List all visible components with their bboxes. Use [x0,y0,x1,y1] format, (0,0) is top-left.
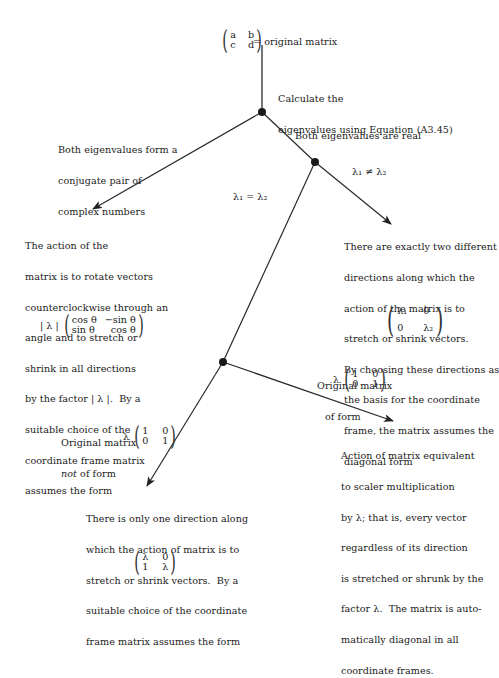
text-line: complex numbers [58,207,178,217]
text-line: There are exactly two different [344,242,499,252]
form-result-text: Action of matrix equivalent to scaler mu… [341,431,483,678]
text-line: factor λ. The matrix is auto- [341,604,483,614]
text-line: matically diagonal in all [341,635,483,645]
text-line: counterclockwise through an [25,303,168,313]
matrix-cell: 1 [162,436,168,447]
real-branch-label: Both eigenvalues are real [295,131,421,141]
text-line: stretch or shrink vectors. By a [86,576,248,586]
left-paren: ( [344,368,350,390]
matrix-prefix: λ [333,374,339,385]
equal-eigenvalues-label: λ₁ = λ₂ [233,192,267,202]
matrix-prefix: λ [123,431,129,442]
text-line: suitable choice of the coordinate [86,606,248,616]
matrix-cell: 1 [142,562,148,573]
matrix-cell: sin θ [72,325,97,336]
right-paren: ) [171,425,177,447]
text-line: There is only one direction along [86,514,248,524]
text-line: frame matrix assumes the form [86,637,248,647]
matrix-cell: λ [162,562,168,573]
text-line: conjugate pair of [58,176,178,186]
rotation-matrix: | λ | ( cos θ −sin θ sin θ cos θ ) [40,314,146,336]
text-line: is stretched or shrunk by the [341,574,483,584]
text-line: matrix is to rotate vectors [25,272,168,282]
left-paren: ( [134,551,140,573]
matrix-prefix: | λ | [40,320,59,331]
text-line: regardless of its direction [341,543,483,553]
node-equal [219,358,227,366]
right-paren: ) [171,551,177,573]
left-paren: ( [64,314,70,336]
right-paren: ) [138,314,144,336]
text-line: directions along which the [344,273,499,283]
matrix-cell: 0 [352,379,358,390]
matrix-cell: 0 [397,323,407,334]
matrix-cell: λ₂ [423,323,433,334]
identity-matrix-not-form: λ ( 1 0 0 1 ) [123,425,179,447]
original-matrix-label: = original matrix [253,37,337,47]
distinct-eigenvalues-label: λ₁ ≠ λ₂ [352,167,386,177]
text-line: by λ; that is, every vector [341,513,483,523]
matrix-cell: c [230,40,236,51]
complex-branch-label: Both eigenvalues form a conjugate pair o… [58,125,178,227]
text-line: to scaler multiplication [341,482,483,492]
not-form-result-text: There is only one direction along which … [86,494,248,657]
text-line: not of form [61,469,136,479]
text-line: by the factor | λ |. By a [25,394,168,404]
text-line: Calculate the [278,94,453,104]
identity-matrix-form: λ ( 1 0 0 1 ) [333,368,389,390]
text-line: Both eigenvalues form a [58,145,178,155]
right-paren: ) [436,309,443,331]
italic-not: not [61,468,77,479]
right-paren: ) [381,368,387,390]
text-line: Action of matrix equivalent [341,451,483,461]
text-line: stretch or shrink vectors. [344,334,499,344]
node-real [311,158,319,166]
matrix-cell: λ₁ [397,306,407,317]
left-paren: ( [222,29,228,51]
jordan-matrix: ( λ 0 1 λ ) [132,551,179,573]
left-paren: ( [387,309,394,331]
matrix-cell: 0 [423,306,433,317]
node-top [258,108,266,116]
matrix-cell: 0 [142,436,148,447]
left-paren: ( [134,425,140,447]
text-line: shrink in all directions [25,364,168,374]
diagonal-matrix: ( λ₁ 0 0 λ₂ ) [384,306,446,333]
text-line: coordinate frames. [341,666,483,676]
text-line: The action of the [25,241,168,251]
text-line: of form [317,412,392,422]
matrix-cell: 1 [372,379,378,390]
matrix-cell: cos θ [105,325,136,336]
